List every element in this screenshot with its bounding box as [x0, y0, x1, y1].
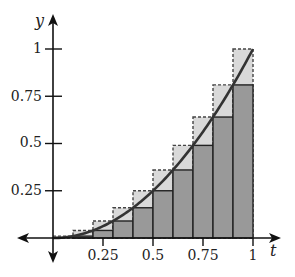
lower-sum-bar: [173, 170, 193, 238]
x-tick-label-1: 1: [249, 247, 258, 263]
lower-sum-bar: [213, 117, 233, 238]
y-tick-label-0.25: 0.25: [11, 182, 42, 198]
x-tick-label-0.75: 0.75: [187, 247, 218, 263]
lower-sum-bar: [93, 230, 113, 238]
lower-sum-bar: [193, 145, 213, 238]
y-tick-label-1: 1: [33, 40, 42, 56]
y-axis-label: y: [34, 11, 45, 30]
riemann-sum-chart: y t 1 0.75 0.5 0.25 0.25 0.5 0.75 1: [0, 0, 295, 277]
lower-sum-bar: [233, 85, 253, 238]
x-tick-label-0.25: 0.25: [87, 247, 118, 263]
y-axis: [48, 14, 58, 263]
x-axis-label: t: [270, 241, 277, 260]
y-tick-label-0.75: 0.75: [11, 88, 42, 104]
y-tick-label-0.5: 0.5: [20, 134, 42, 150]
lower-sum-bar: [133, 208, 153, 238]
lower-sum-bar: [153, 191, 173, 238]
lower-sum-bar: [113, 221, 133, 238]
x-tick-label-0.5: 0.5: [142, 247, 164, 263]
